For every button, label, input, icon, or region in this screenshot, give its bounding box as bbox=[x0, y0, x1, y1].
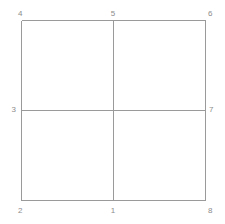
node-label-5: 5 bbox=[111, 10, 115, 18]
node-label-2: 2 bbox=[18, 207, 22, 215]
node-label-3: 3 bbox=[12, 106, 16, 114]
node-label-1: 1 bbox=[111, 207, 115, 215]
node-label-6: 6 bbox=[208, 10, 212, 18]
node-label-7: 7 bbox=[209, 106, 213, 114]
node-label-4: 4 bbox=[18, 10, 22, 18]
grid-lines bbox=[0, 0, 225, 224]
node-label-8: 8 bbox=[208, 207, 212, 215]
diagram-canvas: 12345678 bbox=[0, 0, 225, 224]
